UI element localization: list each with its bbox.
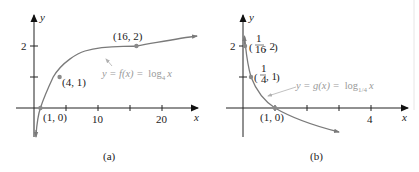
figure: y x 2 10 20 (1, 0) (4, 1) (16, 2) y = f(… [0,0,419,172]
equation-label: y = g(x) =log1/4x [295,80,374,94]
panel-b: y x 2 4 ( 1 16 , 2 ) ( 1 4 , 1 ) (1, 0) [226,11,408,163]
y-tick-label-2: 2 [230,40,236,52]
y-axis-label: y [39,11,45,23]
point-1-0 [273,106,277,110]
point-16-2 [134,44,138,48]
x-tick-label-4: 4 [367,113,373,125]
point-label-4-1: (4, 1) [62,76,86,89]
equation-pointer [268,87,296,96]
point-label-16-2: (16, 2) [113,30,143,43]
y-tick-label-2: 2 [21,40,27,52]
svg-text:): ) [276,71,280,84]
point-1-4-1 [249,75,253,79]
point-label-1-4-1: ( 1 4 , 1 ) [254,62,280,85]
point-label-1-16-2: ( 1 16 , 2 ) [249,32,278,55]
x-axis-label: x [401,111,407,123]
point-1-16-2 [243,44,247,48]
panel-a: y x 2 10 20 (1, 0) (4, 1) (16, 2) y = f(… [16,11,199,163]
x-axis-label: x [193,111,199,123]
caption-a: (a) [103,150,116,163]
svg-text:): ) [274,41,278,54]
x-tick-label-10: 10 [92,113,104,125]
equation-label: y = f(x) =log4x [101,68,172,82]
y-axis-label: y [248,11,254,23]
point-label-1-0: (1, 0) [260,111,284,124]
point-1-0 [38,106,42,110]
point-label-1-0: (1, 0) [43,111,67,124]
x-tick-label-20: 20 [156,113,168,125]
svg-text:(: ( [254,71,258,84]
equation-pointer [106,59,112,66]
caption-b: (b) [310,150,323,163]
svg-text:(: ( [249,41,253,54]
